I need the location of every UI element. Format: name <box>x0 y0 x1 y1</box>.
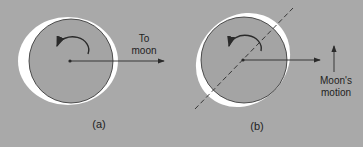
to-moon-label-line1: To <box>139 33 150 44</box>
moon-motion-label-line2: motion <box>321 87 351 98</box>
moon-motion-label-line1: Moon's <box>320 75 352 86</box>
tidal-bulge-diagram: To moon (a) Moon's motion (b) <box>0 0 363 147</box>
caption-b: (b) <box>250 120 263 132</box>
diagram-canvas: To moon (a) Moon's motion (b) <box>0 0 363 147</box>
panel-a: To moon (a) <box>18 17 164 130</box>
to-moon-label-line2: moon <box>131 45 156 56</box>
caption-a: (a) <box>92 118 105 130</box>
panel-b: Moon's motion (b) <box>177 0 352 132</box>
